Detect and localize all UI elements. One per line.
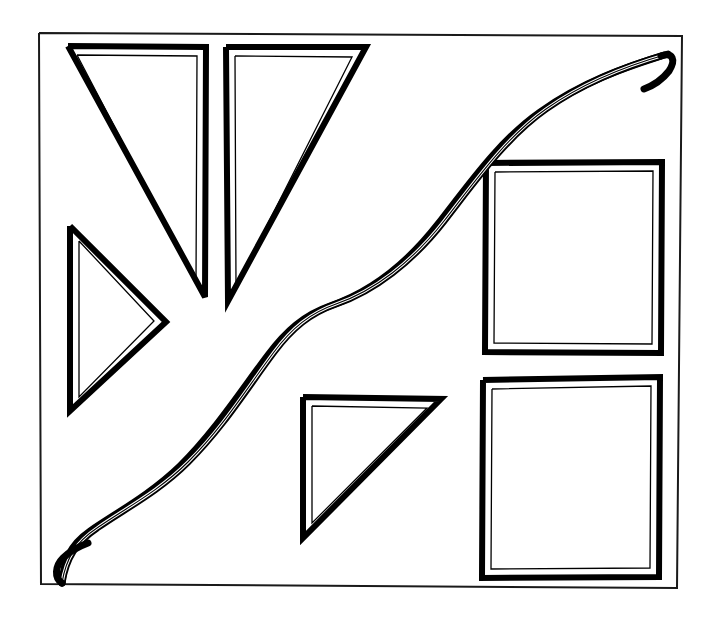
hand-drawn-shapes-svg xyxy=(0,0,715,619)
background-rect xyxy=(0,0,715,619)
diagram-canvas xyxy=(0,0,715,619)
